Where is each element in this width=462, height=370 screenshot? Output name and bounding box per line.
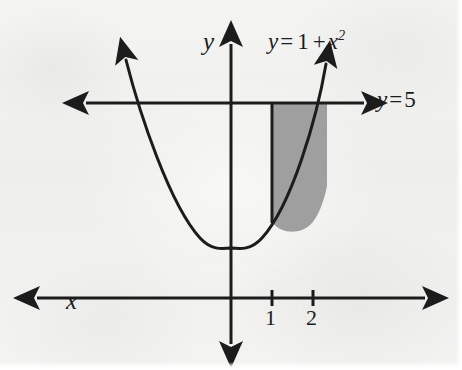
coordinate-plot bbox=[0, 0, 462, 370]
horizontal-line-value: 5 bbox=[404, 87, 416, 112]
x-tick-label-2: 2 bbox=[306, 307, 317, 329]
curve-equation-variable: x bbox=[328, 29, 338, 54]
x-tick-label-1: 1 bbox=[265, 307, 276, 329]
y-axis-label: y bbox=[203, 29, 214, 54]
curve-equation-const: 1 bbox=[295, 29, 311, 54]
x-axis-label: x bbox=[66, 288, 77, 313]
figure-canvas: y=1+x2 y=5 y x 1 2 bbox=[0, 0, 462, 370]
curve-equation-exponent: 2 bbox=[338, 27, 345, 43]
curve-equation-lhs: y bbox=[268, 29, 278, 54]
horizontal-line-equals: = bbox=[387, 87, 404, 112]
curve-equation-plus: + bbox=[311, 29, 328, 54]
curve-equation-equals: = bbox=[278, 29, 295, 54]
horizontal-line-lhs: y bbox=[377, 87, 387, 112]
curve-equation-label: y=1+x2 bbox=[268, 30, 345, 53]
horizontal-line-label: y=5 bbox=[377, 88, 416, 111]
